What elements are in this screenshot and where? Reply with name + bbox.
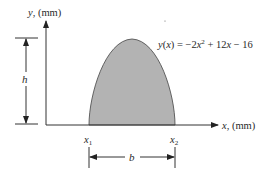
x2-label: x2 [169,134,179,147]
y-axis-label: y, (mm) [27,7,62,19]
x1-label: x1 [83,134,93,147]
equation-label: y(x) = −2x2 + 12x − 16 [157,38,253,51]
parabolic-area-diagram: y, (mm) x, (mm) h y(x) = −2x2 + 12x − 16… [0,0,276,180]
parabola-shaded-region [89,39,175,125]
base-label: b [129,151,135,163]
stray-dot [164,20,165,21]
height-label: h [22,73,28,85]
x-axis-label: x, (mm) [221,120,256,132]
